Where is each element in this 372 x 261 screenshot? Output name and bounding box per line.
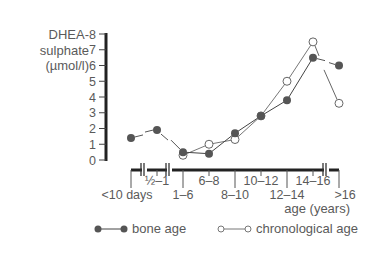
y-tick-label: 1 xyxy=(89,138,96,152)
chronological-age-point xyxy=(309,38,317,46)
x-tick-label: 10–12 xyxy=(244,174,279,188)
bone-age-point xyxy=(205,150,213,158)
y-tick-label: 6 xyxy=(89,59,96,73)
legend-chronological-age: chronological age xyxy=(256,221,358,236)
y-tick-label: 0 xyxy=(89,154,96,168)
x-tick-label: <10 days xyxy=(101,188,152,202)
chronological-age-point xyxy=(283,77,291,85)
x-tick-label: 14–16 xyxy=(296,174,331,188)
y-tick-label: 2 xyxy=(89,122,96,136)
x-tick-label: 1–6 xyxy=(173,188,194,202)
x-tick-label: 6–8 xyxy=(199,174,220,188)
data-lines xyxy=(127,38,343,159)
x-tick-label: ½–1 xyxy=(145,174,169,188)
bone-age-point xyxy=(309,54,317,62)
y-tick-label: 7 xyxy=(89,43,96,57)
bone-age-point xyxy=(127,134,135,142)
y-axis-label: DHEA-sulphate(µmol/l) xyxy=(40,27,89,73)
y-tick-label: 4 xyxy=(89,91,96,105)
legend: bone agechronological age xyxy=(95,221,358,236)
y-axis-label-line: (µmol/l) xyxy=(45,58,89,73)
x-axis: ½–16–810–1214–16<10 days1–68–1012–14>16a… xyxy=(101,163,355,216)
legend-bone-age: bone age xyxy=(132,221,186,236)
y-axis-label-line: sulphate xyxy=(40,43,89,58)
bone-age-point xyxy=(179,148,187,156)
chronological-age-point xyxy=(335,99,343,107)
bone-age-point xyxy=(335,62,343,70)
y-tick-label: 3 xyxy=(89,106,96,120)
bone-age-point xyxy=(231,129,239,137)
y-tick-label: 5 xyxy=(89,75,96,89)
chronological-age-point xyxy=(205,140,213,148)
x-tick-label: 12–14 xyxy=(270,188,305,202)
y-tick-label: 8 xyxy=(89,28,96,42)
x-tick-label: >16 xyxy=(334,188,355,202)
x-tick-label: 8–10 xyxy=(221,188,249,202)
bone-age-legend-marker xyxy=(95,226,102,233)
bone-age-point xyxy=(283,96,291,104)
bone-age-point xyxy=(153,126,161,134)
bone-age-legend-marker xyxy=(121,226,128,233)
y-axis-label-line: DHEA- xyxy=(49,27,89,42)
y-axis: 012345678 xyxy=(89,28,106,168)
x-axis-label: age (years) xyxy=(284,201,350,216)
bone-age-point xyxy=(257,112,265,120)
dhea-sulphate-chart: DHEA-sulphate(µmol/l) 012345678 ½–16–810… xyxy=(0,0,372,261)
